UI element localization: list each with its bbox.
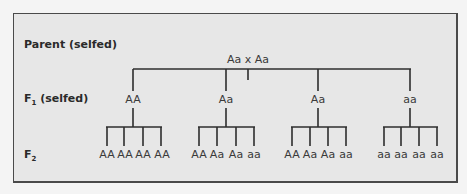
f2-genotype: AA bbox=[284, 149, 299, 161]
f2-genotype: aa bbox=[377, 149, 390, 161]
f2-genotype: AA bbox=[99, 149, 114, 161]
f1-genotype-1: AA bbox=[125, 94, 140, 106]
f2-genotype: Aa bbox=[321, 149, 335, 161]
f2-genotype: AA bbox=[135, 149, 150, 161]
f2-genotype: aa bbox=[339, 149, 352, 161]
f1-genotype-3: Aa bbox=[311, 94, 325, 106]
f2-genotype: aa bbox=[247, 149, 260, 161]
f1-genotype-2: Aa bbox=[219, 94, 233, 106]
f2-genotype: aa bbox=[412, 149, 425, 161]
f2-row-label: F2 bbox=[24, 148, 36, 163]
f2-genotype: Aa bbox=[229, 149, 243, 161]
f2-genotype: AA bbox=[154, 149, 169, 161]
f2-genotype: Aa bbox=[210, 149, 224, 161]
f1-genotype-4: aa bbox=[403, 94, 416, 106]
f1-row-label: F1 (selfed) bbox=[24, 92, 88, 107]
f2-genotype: AA bbox=[117, 149, 132, 161]
parent-cross: Aa x Aa bbox=[227, 54, 269, 66]
f2-genotype: AA bbox=[191, 149, 206, 161]
f2-genotype: Aa bbox=[303, 149, 317, 161]
f2-genotype: aa bbox=[430, 149, 443, 161]
parent-row-label: Parent (selfed) bbox=[24, 38, 117, 51]
f2-genotype: aa bbox=[394, 149, 407, 161]
